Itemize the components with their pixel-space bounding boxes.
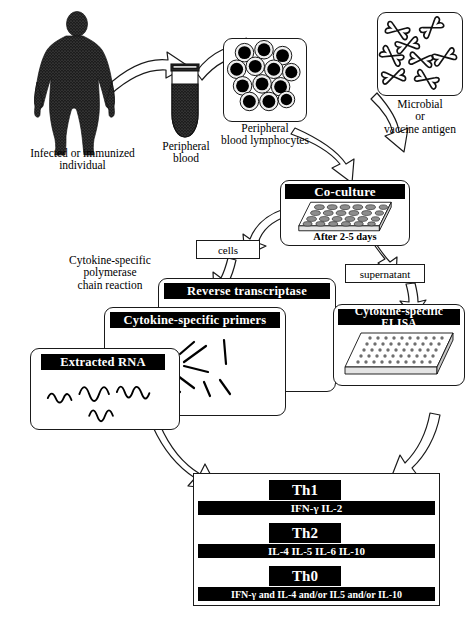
- 96-well-elisa-plate-icon: [337, 329, 461, 381]
- antigen-caption: Microbial or vaccine antigen: [372, 98, 468, 135]
- human-body-silhouette-icon: [22, 8, 132, 158]
- pcr-card-header-2: Extracted RNA: [41, 354, 165, 370]
- lymphocytes-box: [223, 38, 307, 122]
- pcr-card-header-0: Reverse transcriptase: [164, 283, 330, 299]
- pcr-label-line1: Cytokine-specific: [44, 254, 176, 266]
- elisa-header: Cytokine-specific ELISA: [338, 309, 460, 325]
- result-cytokines-1: IL-4 IL-5 IL-6 IL-10: [198, 544, 435, 558]
- arrow-elisa-to-results: [391, 413, 440, 478]
- blood-tube-figure: [163, 62, 207, 140]
- individual-figure: [22, 8, 132, 158]
- antigen-caption-line3: vaccine antigen: [372, 123, 468, 135]
- result-name-1: Th2: [269, 523, 341, 543]
- pcr-card-extracted-rna: Extracted RNA: [30, 348, 180, 430]
- results-panel: Th1 IFN-γ IL-2 Th2 IL-4 IL-5 IL-6 IL-10 …: [193, 473, 440, 606]
- lymphocytes-caption-line1: Peripheral: [216, 122, 314, 134]
- lymphocyte-cells-icon: [224, 39, 304, 119]
- rna-squiggle-icon: [32, 374, 178, 426]
- result-name-0: Th1: [269, 480, 341, 500]
- antigen-caption-line2: or: [372, 110, 468, 122]
- 24-well-culture-plate-icon: [285, 200, 403, 234]
- antigen-particles-icon: [378, 13, 460, 93]
- blood-caption-line2: blood: [140, 152, 232, 164]
- antigen-box: [377, 12, 463, 96]
- pcr-label-line3: chain reaction: [44, 279, 176, 291]
- lymphocytes-caption-line2: blood lymphocytes: [216, 134, 314, 146]
- pcr-label-line2: polymerase: [44, 266, 176, 278]
- lymphocytes-caption: Peripheral blood lymphocytes: [216, 122, 314, 147]
- coculture-header: Co-culture: [285, 184, 405, 199]
- figure-canvas: Infected or immunized individual Periphe…: [0, 0, 475, 627]
- blood-collection-tube-icon: [163, 62, 207, 140]
- supernatant-label: supernatant: [345, 264, 425, 283]
- pcr-card-header-1: Cytokine-specific primers: [110, 312, 280, 328]
- elisa-box: Cytokine-specific ELISA: [333, 304, 465, 386]
- cells-label: cells: [196, 240, 260, 259]
- antigen-caption-line1: Microbial: [372, 98, 468, 110]
- result-cytokines-2: IFN-γ and IL-4 and/or IL5 and/or IL-10: [198, 587, 435, 601]
- result-cytokines-0: IFN-γ IL-2: [198, 501, 435, 515]
- coculture-footer: After 2-5 days: [281, 231, 409, 242]
- result-name-2: Th0: [269, 566, 341, 586]
- pcr-side-label: Cytokine-specific polymerase chain react…: [44, 254, 176, 291]
- coculture-box: Co-culture After 2-5 days: [280, 180, 410, 246]
